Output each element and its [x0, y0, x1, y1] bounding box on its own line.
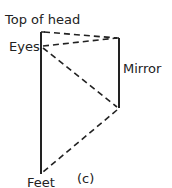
- label-mirror: Mirror: [123, 62, 161, 75]
- ray-eyes-to-mirror-top: [43, 38, 117, 46]
- label-eyes: Eyes: [9, 40, 40, 53]
- ray-head-to-mirror: [44, 32, 117, 38]
- ray-eyes-to-mirror-bottom: [43, 48, 117, 107]
- label-feet: Feet: [27, 176, 55, 188]
- ray-mirror-to-feet: [43, 110, 117, 172]
- label-panel-c: (c): [77, 172, 94, 185]
- label-top-of-head: Top of head: [5, 13, 80, 26]
- mirror-diagram: Top of head Eyes Mirror Feet (c): [0, 0, 172, 188]
- ray-geometry: [0, 0, 172, 188]
